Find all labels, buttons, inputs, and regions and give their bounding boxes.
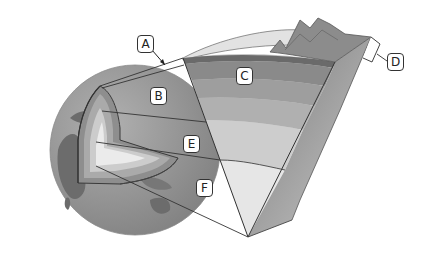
label-f: F [196,179,213,197]
earth-wedge-section [183,18,371,237]
earth-layers-diagram [0,0,421,254]
label-c: C [236,67,253,85]
label-d: D [387,53,404,71]
label-b: B [150,87,167,105]
continent-madagascar [65,197,70,210]
label-e: E [183,135,200,153]
label-a: A [137,35,154,53]
